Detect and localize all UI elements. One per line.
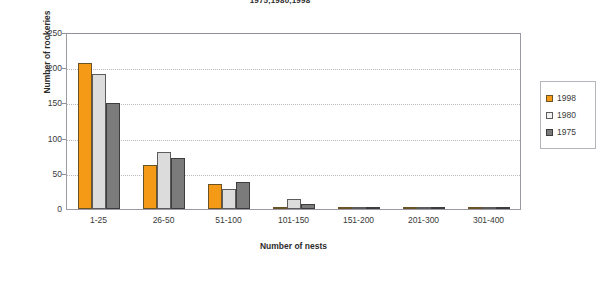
bar-group bbox=[208, 33, 250, 209]
x-axis-title: Number of nests bbox=[66, 241, 521, 251]
bar-group bbox=[468, 33, 510, 209]
x-tick-label: 101-150 bbox=[278, 215, 309, 225]
bar bbox=[92, 74, 106, 209]
legend-swatch-icon bbox=[546, 112, 553, 119]
bar bbox=[352, 207, 366, 209]
legend-swatch-icon bbox=[546, 95, 553, 102]
bar bbox=[273, 207, 287, 209]
bar bbox=[287, 199, 301, 209]
x-tick-label: 1-25 bbox=[90, 215, 107, 225]
bar bbox=[468, 207, 482, 209]
bar bbox=[301, 204, 315, 209]
legend-item[interactable]: 1975 bbox=[546, 125, 591, 139]
bar bbox=[157, 152, 171, 209]
legend-label: 1975 bbox=[557, 127, 576, 137]
x-tick-label: 301-400 bbox=[473, 215, 504, 225]
bar bbox=[208, 184, 222, 209]
legend-swatch-icon bbox=[546, 129, 553, 136]
bar bbox=[366, 207, 380, 209]
chart-title: 1975,1980,1998 bbox=[0, 0, 560, 5]
y-tick-label: 150 bbox=[22, 98, 62, 108]
bar-group bbox=[78, 33, 120, 209]
bar bbox=[171, 158, 185, 209]
bar-chart: 1975,1980,1998 Number of rookeries 05010… bbox=[0, 0, 610, 282]
legend-item[interactable]: 1998 bbox=[546, 91, 591, 105]
bar bbox=[417, 207, 431, 209]
y-tick-label: 0 bbox=[22, 204, 62, 214]
bar bbox=[236, 182, 250, 209]
y-tick-label: 250 bbox=[22, 28, 62, 38]
bar bbox=[431, 207, 445, 209]
bar-group bbox=[338, 33, 380, 209]
bar bbox=[222, 189, 236, 209]
bar bbox=[106, 103, 120, 209]
bar-group bbox=[403, 33, 445, 209]
bar bbox=[403, 207, 417, 209]
legend-label: 1980 bbox=[557, 110, 576, 120]
y-tick-label: 200 bbox=[22, 63, 62, 73]
x-tick-label: 201-300 bbox=[408, 215, 439, 225]
y-tick-label: 50 bbox=[22, 169, 62, 179]
legend-label: 1998 bbox=[557, 93, 576, 103]
bar bbox=[338, 207, 352, 209]
bar bbox=[143, 165, 157, 209]
bar bbox=[496, 207, 510, 209]
y-tick-label: 100 bbox=[22, 134, 62, 144]
x-tick-label: 51-100 bbox=[215, 215, 241, 225]
x-tick-label: 26-50 bbox=[153, 215, 175, 225]
bar bbox=[78, 63, 92, 209]
bar bbox=[482, 207, 496, 209]
chart-legend: 199819801975 bbox=[540, 81, 596, 149]
bars-layer bbox=[66, 33, 521, 209]
bar-group bbox=[273, 33, 315, 209]
bar-group bbox=[143, 33, 185, 209]
x-tick-label: 151-200 bbox=[343, 215, 374, 225]
legend-item[interactable]: 1980 bbox=[546, 108, 591, 122]
